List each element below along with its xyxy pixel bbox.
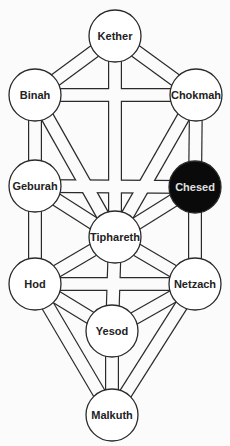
node-label: Tiphareth	[90, 231, 140, 243]
node-label: Geburah	[12, 180, 58, 192]
node-label: Binah	[20, 89, 51, 101]
tree-of-life-diagram: KetherBinahChokmahGeburahChesedTiphareth…	[0, 0, 230, 446]
sephirah-malkuth: Malkuth	[86, 389, 138, 441]
node-label: Chokmah	[171, 89, 221, 101]
node-label: Chesed	[175, 181, 215, 193]
sephirah-chesed: Chesed	[169, 161, 221, 213]
node-label: Hod	[24, 278, 45, 290]
sephirah-kether: Kether	[89, 10, 141, 62]
node-label: Malkuth	[91, 409, 133, 421]
sephirah-binah: Binah	[9, 69, 61, 121]
node-label: Kether	[98, 30, 134, 42]
sephirah-geburah: Geburah	[9, 160, 61, 212]
sephirah-hod: Hod	[9, 258, 61, 310]
node-label: Netzach	[174, 278, 216, 290]
sephirah-netzach: Netzach	[169, 258, 221, 310]
sephirah-chokmah: Chokmah	[170, 69, 222, 121]
sephirah-tiphareth: Tiphareth	[89, 211, 141, 263]
node-label: Yesod	[96, 325, 128, 337]
sephirah-yesod: Yesod	[86, 305, 138, 357]
